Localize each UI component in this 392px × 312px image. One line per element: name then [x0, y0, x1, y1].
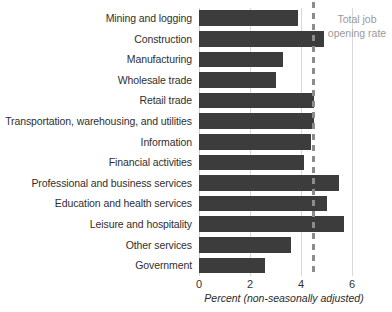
bar-financial-activities	[199, 155, 304, 171]
bar-retail-trade	[199, 93, 314, 109]
category-label-other-services: Other services	[126, 235, 192, 256]
category-label-wholesale-trade: Wholesale trade	[118, 70, 192, 91]
bar-row: Professional and business services	[0, 173, 392, 194]
bar-professional-and-business-services	[199, 175, 339, 191]
category-label-financial-activities: Financial activities	[109, 152, 192, 173]
bar-row: Information	[0, 132, 392, 153]
bar-mining-and-logging	[199, 10, 298, 26]
reference-line-annotation: Total job opening rate	[322, 12, 392, 40]
annotation-line-2: opening rate	[322, 26, 392, 40]
x-axis-title: Percent (non-seasonally adjusted)	[199, 292, 369, 304]
bar-row: Government	[0, 255, 392, 276]
bar-wholesale-trade	[199, 72, 276, 88]
bar-row: Wholesale trade	[0, 70, 392, 91]
bar-row: Manufacturing	[0, 49, 392, 70]
annotation-line-1: Total job	[322, 12, 392, 26]
category-label-transportation-warehousing-and-utilities: Transportation, warehousing, and utiliti…	[5, 111, 192, 132]
bar-construction	[199, 31, 324, 47]
bar-rows: Mining and logging Construction Manufact…	[0, 8, 392, 276]
job-openings-bar-chart: Mining and logging Construction Manufact…	[0, 0, 392, 312]
x-tick-0: 0	[196, 278, 202, 291]
category-label-construction: Construction	[134, 29, 192, 50]
bar-manufacturing	[199, 52, 283, 68]
category-label-leisure-and-hospitality: Leisure and hospitality	[90, 214, 192, 235]
bar-leisure-and-hospitality	[199, 216, 344, 232]
x-tick-6: 6	[349, 278, 355, 291]
bar-row: Financial activities	[0, 152, 392, 173]
bar-information	[199, 134, 311, 150]
x-tick-4: 4	[298, 278, 304, 291]
category-label-manufacturing: Manufacturing	[127, 49, 192, 70]
category-label-education-and-health-services: Education and health services	[55, 193, 192, 214]
total-job-opening-rate-reference-line	[312, 2, 315, 276]
category-label-information: Information	[141, 132, 192, 153]
x-axis-ticks: 0 2 4 6	[0, 278, 392, 292]
bar-row: Transportation, warehousing, and utiliti…	[0, 111, 392, 132]
x-tick-2: 2	[247, 278, 253, 291]
bar-education-and-health-services	[199, 196, 327, 212]
category-label-government: Government	[135, 255, 192, 276]
bar-government	[199, 258, 265, 274]
bar-row: Education and health services	[0, 193, 392, 214]
category-label-mining-and-logging: Mining and logging	[106, 8, 192, 29]
category-label-retail-trade: Retail trade	[140, 90, 193, 111]
bar-other-services	[199, 237, 291, 253]
category-label-professional-and-business-services: Professional and business services	[31, 173, 192, 194]
bar-transportation-warehousing-and-utilities	[199, 113, 314, 129]
bar-row: Other services	[0, 235, 392, 256]
bar-row: Leisure and hospitality	[0, 214, 392, 235]
bar-row: Retail trade	[0, 90, 392, 111]
